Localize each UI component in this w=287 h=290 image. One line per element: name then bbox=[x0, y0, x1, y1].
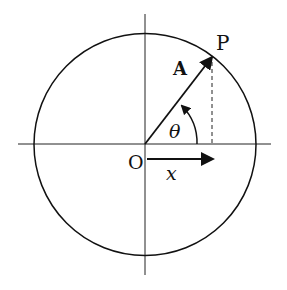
label-theta: θ bbox=[169, 120, 181, 142]
label-P: P bbox=[216, 31, 229, 55]
angle-arc-arrow bbox=[182, 106, 197, 144]
label-x: x bbox=[166, 162, 177, 184]
label-O: O bbox=[128, 151, 144, 173]
label-A: A bbox=[172, 58, 188, 79]
phasor-diagram: P A θ O x bbox=[0, 0, 287, 290]
